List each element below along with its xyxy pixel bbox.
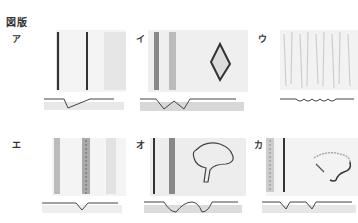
figure-panel-e: エ bbox=[12, 138, 130, 223]
figure-panel-ka: カ bbox=[256, 138, 358, 223]
groove-image bbox=[136, 28, 254, 128]
groove-image bbox=[256, 28, 358, 128]
groove-image bbox=[256, 138, 358, 223]
figure-panel-o: オ bbox=[136, 138, 254, 223]
groove-image bbox=[136, 138, 254, 223]
figure-panel-i: イ bbox=[136, 28, 254, 128]
figure-panel-a: ア bbox=[12, 28, 130, 128]
figure-panel-u: ウ bbox=[256, 28, 358, 128]
groove-image bbox=[12, 138, 130, 223]
page-title: 図版 bbox=[6, 14, 27, 29]
groove-image bbox=[12, 28, 130, 128]
